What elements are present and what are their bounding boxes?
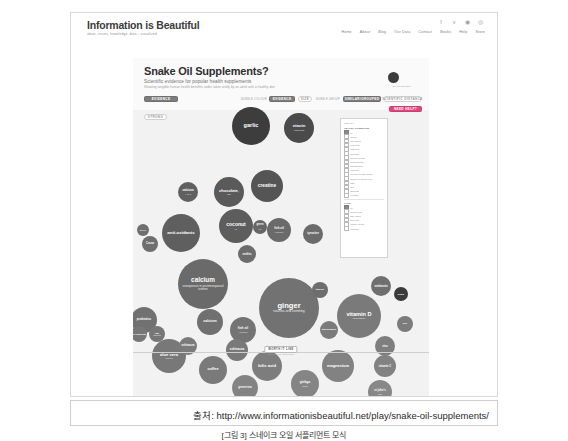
twitter-icon[interactable]: ᴠ [451, 19, 457, 25]
bubble-label: echinacea [182, 345, 195, 348]
site-logo[interactable]: Information is Beautiful ideas, issues, … [87, 20, 199, 37]
bubble-niacin[interactable]: niacin(vitamin B3) [284, 113, 314, 143]
bubble-coffee[interactable]: coffee [199, 356, 227, 384]
bubble-green-tea[interactable]: green tea [232, 375, 258, 396]
colour-evidence-button[interactable]: EVIDENCE [269, 96, 295, 102]
colour-size-button[interactable]: SIZE [298, 96, 312, 102]
bubble-calcium[interactable]: calcium [197, 309, 223, 335]
bubble-zinc[interactable]: zinc [375, 336, 395, 356]
bubble-label: MAGNESIUM [133, 333, 146, 335]
bubble-magnesium[interactable]: magnesium [322, 350, 354, 382]
group-similar-button[interactable]: SIMILAR/GROUPED [343, 96, 381, 102]
strong-filter-button[interactable]: STRONG [144, 114, 167, 120]
bubble-folic-acid[interactable]: folic acid [252, 351, 282, 381]
bubble-biotin[interactable]: biotin [394, 287, 408, 301]
bubble-nettles[interactable]: nettles [238, 245, 256, 263]
social-links: f ᴠ ◉ ◎ [438, 19, 483, 25]
bubble-soya[interactable]: SOYA [137, 224, 149, 236]
filter-option-vitamins[interactable]: vitamins [344, 226, 384, 230]
bubble-creatine[interactable]: creatine [251, 170, 283, 202]
bubble-saw[interactable]: sawpalmetto [149, 326, 165, 342]
bubble-soy[interactable]: soy [397, 316, 413, 332]
bubble-vitamin-c[interactable]: vitamin C [374, 355, 396, 377]
bubble-sublabel: wort [378, 393, 382, 395]
visualization-panel: Snake Oil Supplements? Scientific eviden… [133, 58, 429, 396]
bubble-label: SOYA [140, 229, 146, 231]
checkbox-icon[interactable] [344, 193, 349, 198]
bubble-ginkgo[interactable]: ginkgobiloba [291, 370, 319, 396]
bubble-garlic[interactable]: garlic [232, 107, 270, 145]
page-subtitle: Scientific evidence for popular health s… [144, 79, 251, 84]
bubble-calcium[interactable]: calcium+ vit. D [178, 182, 198, 202]
bubble-green[interactable]: greentea [253, 220, 267, 234]
filter-group-type-header: TYPE [344, 202, 384, 205]
bubble-chocolate[interactable]: chocolate,dark [214, 177, 244, 207]
figure-caption: [그림 3] 스네이크 오일 서플리먼트 모식 [0, 429, 568, 440]
bubble-tyrosine[interactable]: tyrosine [303, 224, 323, 244]
bubble-sublabel: nausea and vomiting [273, 310, 304, 314]
bubble-label: coconut [226, 222, 245, 227]
need-help-button[interactable]: NEED HELP? [389, 106, 422, 112]
legend-size-dot [388, 72, 399, 83]
bubble-label: creatine [258, 184, 276, 189]
bubble-echinacea[interactable]: echinacea [226, 339, 248, 361]
filter-option-label: all [350, 207, 352, 209]
bubble-coconut[interactable]: coconutoil [219, 209, 253, 243]
logo-tagline: ideas, issues, knowledge, data – visuali… [87, 32, 199, 37]
evidence-toggle-button[interactable]: EVIDENCE [144, 96, 178, 102]
google-plus-icon[interactable]: ◉ [464, 19, 470, 25]
bubble-ginger[interactable]: gingernausea and vomiting [259, 278, 319, 338]
bubble-anti-oxidants[interactable]: anti-oxidants [162, 214, 200, 252]
bubble-label: garlic [244, 123, 259, 129]
bubble-label: nettles [242, 253, 251, 256]
bubble-label: green tea [238, 386, 251, 389]
filter-panel-title: filter by: [344, 122, 384, 125]
source-url-text: 출처: http://www.informationisbeautiful.ne… [193, 408, 489, 422]
bubble-label: zinc [382, 345, 387, 348]
filter-option-label: fatty acids [350, 215, 360, 217]
worth-it-sublabel: above this line, worth taking [268, 353, 294, 355]
nav-item-store[interactable]: Store [475, 30, 485, 34]
bubble-sublabel: / omega 3 [239, 331, 248, 333]
nav-item-help[interactable]: Help [459, 30, 467, 34]
bubble-sublabel: osteoporosis in postmenopausal women [178, 285, 228, 291]
bubble-fish-oil[interactable]: fish oil/ omega 3 [267, 218, 291, 242]
bubble-magnesium[interactable]: MAGNESIUM [133, 326, 147, 342]
bubble-calcium[interactable]: calciumosteoporosis in postmenopausal wo… [178, 259, 228, 309]
filter-option-label: sickness [350, 190, 359, 192]
group-scientific-distance-button[interactable]: SCIENTIFIC DISTANCE [384, 96, 421, 102]
bubble-vitamin-d[interactable]: vitamin Ddepression [337, 294, 381, 338]
nav-item-home[interactable]: Home [341, 30, 351, 34]
filter-panel[interactable]: filter by: HEALTH CONDITION allcancercho… [340, 118, 388, 258]
rss-icon[interactable]: ◎ [477, 19, 483, 25]
bubble-taurine[interactable]: taurine [312, 282, 328, 298]
nav-item-blog[interactable]: Blog [378, 30, 386, 34]
bubble-label: anti-oxidants [167, 231, 194, 235]
bubble-st-john-s[interactable]: st john'swort [368, 380, 392, 396]
bubble-label: aloe vera [160, 353, 178, 357]
bubble-label: biotin [398, 293, 404, 295]
facebook-icon[interactable]: f [438, 19, 444, 25]
nav-item-about[interactable]: About [360, 30, 370, 34]
bubble-label: glucosamine [322, 329, 337, 331]
bubble-sublabel: depression [353, 318, 365, 321]
bubble-melatonin[interactable]: melatonin [371, 276, 391, 296]
filter-option-label: skin [350, 186, 354, 188]
bubble-cocoa[interactable]: Cocoa [142, 236, 158, 252]
bubble-glucosamine[interactable]: glucosamine [320, 321, 338, 339]
filter-option-label: amino acids [350, 211, 362, 213]
filter-option-label: inflammation [350, 165, 363, 167]
filter-option-prostate[interactable]: prostate [344, 193, 384, 197]
checkbox-icon[interactable] [344, 226, 349, 231]
filter-option-label: pain [350, 182, 354, 184]
filter-option-label: general health [350, 157, 365, 159]
filter-option-label: digestion [350, 153, 359, 155]
nav-item-contact[interactable]: Contact [418, 30, 432, 34]
bubble-label: coffee [207, 368, 218, 372]
bubble-label: ginkgo [300, 381, 310, 384]
bubble-sublabel: eczema [165, 357, 172, 359]
nav-item-books[interactable]: Books [440, 30, 451, 34]
filter-group-type-list: allamino acidsfatty acidsmineralsplants … [344, 206, 384, 231]
bubble-sublabel: oil [235, 228, 237, 230]
nav-item-our-data[interactable]: Our Data [394, 30, 410, 34]
